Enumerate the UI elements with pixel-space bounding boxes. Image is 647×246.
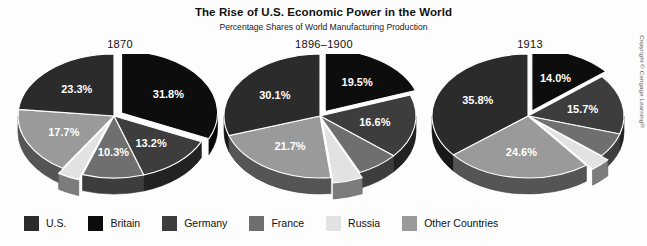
legend-items: U.S.BritainGermanyFranceRussiaOther Coun… bbox=[0, 216, 520, 231]
pie-slice-label-russia: 3.5% bbox=[583, 201, 608, 202]
page-title: The Rise of U.S. Economic Power in the W… bbox=[0, 6, 647, 18]
legend-item: Other Countries bbox=[402, 216, 498, 231]
legend-label: Germany bbox=[184, 217, 227, 229]
legend-swatch-icon bbox=[326, 216, 341, 231]
pie-slice-label-u-s: 35.8% bbox=[462, 94, 493, 106]
pie-svg: 31.8%13.2%10.3%3.7%17.7%23.3% bbox=[6, 54, 222, 202]
pie-slice-label-germany: 16.6% bbox=[359, 116, 390, 128]
year-label-1913: 1913 bbox=[455, 38, 605, 50]
page-subtitle: Percentage Shares of World Manufacturing… bbox=[0, 22, 647, 32]
legend-label: Other Countries bbox=[424, 217, 498, 229]
pie-charts-container: 31.8%13.2%10.3%3.7%17.7%23.3% 19.5%16.6%… bbox=[0, 54, 647, 202]
pie-svg: 14.0%15.7%6.4%3.5%24.6%35.8% bbox=[420, 54, 636, 202]
legend-swatch-icon bbox=[88, 216, 103, 231]
pie-slice-label-britain: 14.0% bbox=[540, 72, 571, 84]
legend-item: Germany bbox=[162, 216, 227, 231]
pie-slice-label-germany: 15.7% bbox=[567, 103, 598, 115]
pie-slice-label-u-s: 30.1% bbox=[259, 89, 290, 101]
legend-item: France bbox=[249, 216, 304, 231]
legend-label: Russia bbox=[348, 217, 380, 229]
legend-item: Britain bbox=[88, 216, 140, 231]
legend-label: Britain bbox=[110, 217, 140, 229]
pie-slice-label-britain: 19.5% bbox=[342, 76, 373, 88]
legend-label: U.S. bbox=[46, 217, 66, 229]
legend-swatch-icon bbox=[162, 216, 177, 231]
pie-slice-label-other-countries: 21.7% bbox=[274, 140, 305, 152]
pie-chart-1913: 14.0%15.7%6.4%3.5%24.6%35.8% bbox=[420, 54, 636, 202]
pie-slice-label-u-s: 23.3% bbox=[61, 83, 92, 95]
pie-slice-label-russia: 3.7% bbox=[60, 201, 85, 202]
pie-slice-label-other-countries: 24.6% bbox=[506, 146, 537, 158]
legend: U.S.BritainGermanyFranceRussiaOther Coun… bbox=[0, 206, 647, 240]
legend-swatch-icon bbox=[402, 216, 417, 231]
copyright-notice: Copyright © Cengage Learning® bbox=[639, 35, 646, 128]
pie-slice-label-russia: 5.0% bbox=[334, 201, 359, 202]
year-labels: 1870 1896–1900 1913 bbox=[0, 38, 647, 54]
legend-item: Russia bbox=[326, 216, 380, 231]
legend-swatch-icon bbox=[249, 216, 264, 231]
legend-swatch-icon bbox=[24, 216, 39, 231]
pie-slice-label-germany: 13.2% bbox=[135, 137, 166, 149]
pie-svg: 19.5%16.6%7.1%5.0%21.7%30.1% bbox=[212, 54, 428, 202]
pie-slice-label-other-countries: 17.7% bbox=[48, 126, 79, 138]
pie-slice-label-france: 10.3% bbox=[98, 146, 129, 158]
pie-slice-label-france: 7.1% bbox=[362, 201, 387, 202]
pie-chart-1896-1900: 19.5%16.6%7.1%5.0%21.7%30.1% bbox=[212, 54, 428, 202]
figure-root: The Rise of U.S. Economic Power in the W… bbox=[0, 0, 647, 246]
legend-label: France bbox=[271, 217, 304, 229]
year-label-1870: 1870 bbox=[45, 38, 195, 50]
legend-item: U.S. bbox=[24, 216, 66, 231]
pie-chart-1870: 31.8%13.2%10.3%3.7%17.7%23.3% bbox=[6, 54, 222, 202]
year-label-1896-1900: 1896–1900 bbox=[249, 38, 399, 50]
pie-slice-label-britain: 31.8% bbox=[153, 88, 184, 100]
